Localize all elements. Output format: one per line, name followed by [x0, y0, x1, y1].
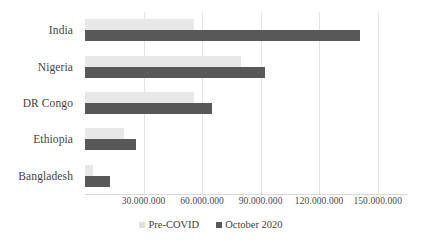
bar-ethiopia-october-2020: [85, 139, 136, 150]
bar-row: [85, 56, 407, 67]
square-marker-icon: [216, 222, 222, 228]
x-tick-label-2: 90.000.000: [239, 196, 283, 206]
plot-area: [85, 12, 407, 194]
legend-item-pre-covid: Pre-COVID: [139, 219, 199, 230]
x-tick-label-4: 150.000.000: [353, 196, 402, 206]
chart-legend: Pre-COVID October 2020: [0, 219, 422, 230]
bar-dr-congo-pre-covid: [85, 92, 194, 103]
x-tick-label-1: 60.000.000: [180, 196, 224, 206]
bar-group: [85, 12, 407, 48]
legend-item-october-2020: October 2020: [216, 219, 282, 230]
category-label-ethiopia: Ethiopia: [0, 121, 79, 157]
bar-row: [85, 92, 407, 103]
bar-group: [85, 121, 407, 157]
category-label-bangladesh: Bangladesh: [0, 158, 79, 194]
bar-row: [85, 176, 407, 187]
bar-row: [85, 67, 407, 78]
bar-dr-congo-october-2020: [85, 103, 212, 114]
x-axis-tick-labels: 30.000.00060.000.00090.000.000120.000.00…: [0, 196, 422, 212]
bar-groups: [85, 12, 407, 194]
category-label-dr-congo: DR Congo: [0, 85, 79, 121]
bar-row: [85, 128, 407, 139]
bar-row: [85, 165, 407, 176]
bar-chart: India Nigeria DR Congo Ethiopia Banglade…: [0, 0, 422, 245]
bar-group: [85, 158, 407, 194]
bar-india-pre-covid: [85, 19, 194, 30]
x-tick-label-3: 120.000.000: [295, 196, 344, 206]
category-axis-labels: India Nigeria DR Congo Ethiopia Banglade…: [0, 12, 79, 194]
category-label-nigeria: Nigeria: [0, 48, 79, 84]
bar-row: [85, 30, 407, 41]
bar-bangladesh-pre-covid: [85, 165, 93, 176]
category-label-india: India: [0, 12, 79, 48]
x-tick-label-0: 30.000.000: [122, 196, 166, 206]
legend-label-october-2020: October 2020: [225, 219, 282, 230]
bar-bangladesh-october-2020: [85, 176, 110, 187]
bar-row: [85, 139, 407, 150]
bar-group: [85, 48, 407, 84]
bar-india-october-2020: [85, 30, 360, 41]
bar-ethiopia-pre-covid: [85, 128, 124, 139]
bar-nigeria-pre-covid: [85, 56, 241, 67]
bar-group: [85, 85, 407, 121]
bar-row: [85, 19, 407, 30]
square-marker-icon: [139, 222, 145, 228]
bar-nigeria-october-2020: [85, 67, 265, 78]
legend-label-pre-covid: Pre-COVID: [148, 219, 199, 230]
bar-row: [85, 103, 407, 114]
x-axis-line: [85, 194, 407, 195]
